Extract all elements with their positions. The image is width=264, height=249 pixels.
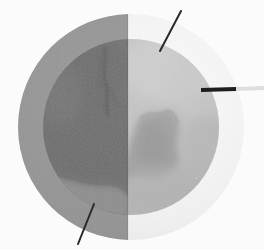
marker-right-horizontal-icon [201,89,236,90]
specimen-image [0,0,264,249]
half-split-seam [127,0,129,249]
marker-right-extension-icon [236,88,264,89]
specimen-figure [0,0,264,249]
